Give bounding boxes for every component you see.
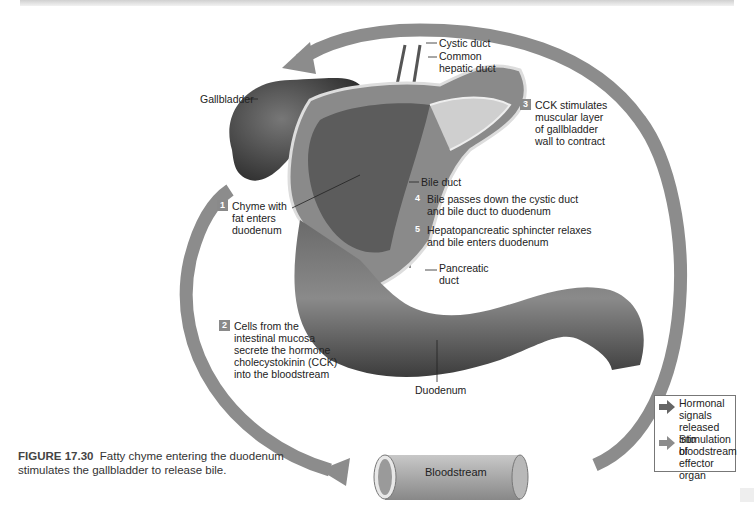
step-2-badge: 2 xyxy=(219,320,230,331)
arrow-head-icon xyxy=(282,42,316,74)
label-bile-duct: Bile duct xyxy=(421,176,461,188)
light-arrow-icon xyxy=(659,436,675,450)
legend-item-hormonal: Hormonal signals released into bloodstre… xyxy=(655,396,735,432)
step-4-text: Bile passes down the cystic duct and bil… xyxy=(427,193,578,217)
step-2-text: Cells from the intestinal mucosa secrete… xyxy=(234,320,337,380)
legend-text-stimulation: Stimulation of effector organ xyxy=(679,433,735,481)
label-bloodstream: Bloodstream xyxy=(425,466,487,478)
step-2: 2 Cells from the intestinal mucosa secre… xyxy=(219,320,337,380)
label-pancreatic-duct: Pancreatic duct xyxy=(439,262,489,286)
step-3-text: CCK stimulates muscular layer of gallbla… xyxy=(535,99,607,147)
step-5-badge: 5 xyxy=(412,224,423,235)
step-5-text: Hepatopancreatic sphincter relaxes and b… xyxy=(427,224,592,248)
figure-caption: FIGURE 17.30 Fatty chyme entering the du… xyxy=(18,449,298,477)
dark-arrow-icon xyxy=(659,400,675,414)
label-gallbladder: Gallbladder xyxy=(200,93,254,105)
legend-item-stimulation: Stimulation of effector organ xyxy=(655,432,735,468)
label-common-hepatic-duct: Common hepatic duct xyxy=(439,50,496,74)
diagram-illustration xyxy=(0,0,754,507)
figure-number: FIGURE 17.30 xyxy=(18,450,93,462)
page-edge-mark xyxy=(740,488,754,502)
step-1: 1 Chyme with fat enters duodenum xyxy=(217,200,287,236)
step-3-badge: 3 xyxy=(520,99,531,110)
label-cystic-duct: Cystic duct xyxy=(439,37,490,49)
label-duodenum: Duodenum xyxy=(415,384,466,396)
step-1-badge: 1 xyxy=(217,200,228,211)
step-1-text: Chyme with fat enters duodenum xyxy=(232,200,287,236)
step-3: 3 CCK stimulates muscular layer of gallb… xyxy=(520,99,607,147)
step-4: 4 Bile passes down the cystic duct and b… xyxy=(412,193,578,217)
legend-box: Hormonal signals released into bloodstre… xyxy=(654,395,736,472)
step-5: 5 Hepatopancreatic sphincter relaxes and… xyxy=(412,224,592,248)
step-4-badge: 4 xyxy=(412,193,423,204)
